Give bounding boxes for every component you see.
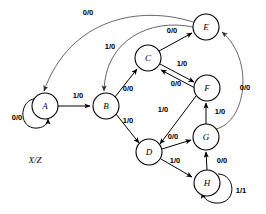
- edge-label-C-E: 0/0: [167, 26, 177, 35]
- node-C-label: C: [145, 53, 152, 63]
- node-C[interactable]: C: [135, 45, 161, 71]
- node-E[interactable]: E: [193, 14, 219, 40]
- edge-label-G-E: 0/0: [240, 83, 250, 92]
- edge-label-C-F: 1/0: [177, 59, 187, 68]
- node-A-label: A: [41, 101, 48, 111]
- edge-C-E: [159, 33, 192, 51]
- edge-label-A-A: 0/0: [12, 113, 22, 122]
- state-diagram-svg: A B C D E F G H 0/0: [0, 0, 266, 214]
- node-B[interactable]: B: [93, 93, 119, 119]
- edge-label-B-D: 1/0: [123, 116, 133, 125]
- node-F-label: F: [203, 83, 210, 93]
- node-G[interactable]: G: [193, 124, 219, 150]
- state-diagram-canvas: A B C D E F G H 0/0: [0, 0, 266, 214]
- edge-label-D-G: 0/0: [168, 132, 178, 141]
- node-E-label: E: [202, 22, 209, 32]
- edge-label-E-B: 1/0: [105, 42, 115, 51]
- edge-label-H-G: 0/0: [217, 156, 227, 165]
- node-H-label: H: [203, 178, 211, 188]
- node-H[interactable]: H: [194, 170, 220, 196]
- node-F[interactable]: F: [194, 75, 220, 101]
- edge-label-F-D: 1/0: [158, 105, 168, 114]
- node-G-label: G: [203, 132, 210, 142]
- legend-xz: X/Z: [27, 155, 42, 165]
- edge-label-D-H: 1/0: [170, 156, 180, 165]
- node-D[interactable]: D: [136, 139, 162, 165]
- edge-label-A-B: 1/0: [73, 91, 83, 100]
- edge-D-G: [162, 140, 191, 149]
- edge-label-B-C: 0/0: [123, 84, 133, 93]
- edge-label-H-H: 1/1: [236, 186, 246, 195]
- edge-H-G: [206, 152, 207, 170]
- edge-label-E-A: 0/0: [83, 8, 93, 17]
- node-D-label: D: [145, 147, 153, 157]
- node-A[interactable]: A: [32, 93, 58, 119]
- edge-label-G-F: 1/0: [215, 107, 225, 116]
- edge-label-F-C: 0/0: [171, 79, 181, 88]
- node-B-label: B: [103, 101, 109, 111]
